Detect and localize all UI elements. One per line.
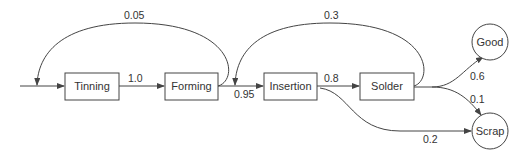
edge-label-solder-scrap: 0.1 — [470, 93, 485, 105]
node-label-solder: Solder — [371, 80, 403, 92]
edge-label-solder-good: 0.6 — [470, 70, 485, 82]
node-insertion: Insertion — [264, 73, 317, 100]
node-scrap: Scrap — [472, 113, 508, 149]
edge-label-forming-tinning: 0.05 — [124, 9, 145, 21]
node-forming: Forming — [165, 73, 218, 100]
edge-label-solder-insertion: 0.3 — [324, 9, 339, 21]
node-label-good: Good — [477, 36, 504, 48]
edge-label-insertion-solder: 0.8 — [324, 72, 339, 84]
node-label-scrap: Scrap — [476, 125, 505, 137]
process-flow-diagram: 1.0 0.05 0.95 0.3 0.8 0.2 0.6 0.1 Tinnin… — [0, 0, 531, 158]
edge-label-tinning-forming: 1.0 — [128, 72, 143, 84]
node-good: Good — [472, 24, 508, 60]
node-solder: Solder — [360, 73, 414, 100]
node-tinning: Tinning — [65, 73, 119, 100]
node-label-forming: Forming — [171, 80, 211, 92]
node-label-tinning: Tinning — [74, 80, 110, 92]
edge-label-insertion-scrap: 0.2 — [423, 133, 438, 145]
node-label-insertion: Insertion — [269, 80, 311, 92]
edge-label-forming-insertion: 0.95 — [234, 88, 255, 100]
